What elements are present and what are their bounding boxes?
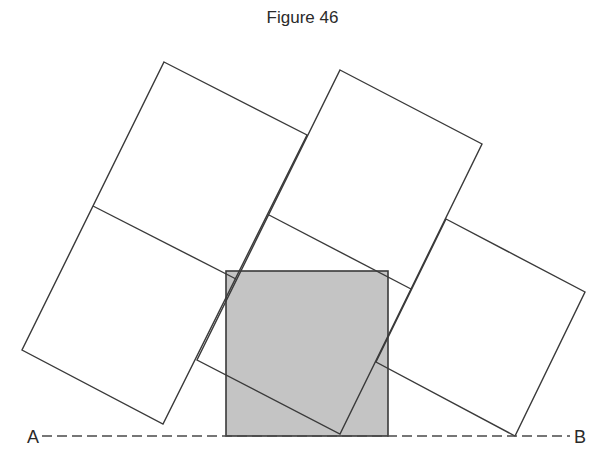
left-rectangle-divider <box>93 206 236 279</box>
point-a-label: A <box>27 427 39 447</box>
point-b-label: B <box>574 427 586 447</box>
shaded-square <box>226 271 388 436</box>
geometry-diagram: A B <box>0 0 605 464</box>
right-tilted-square <box>376 219 585 436</box>
